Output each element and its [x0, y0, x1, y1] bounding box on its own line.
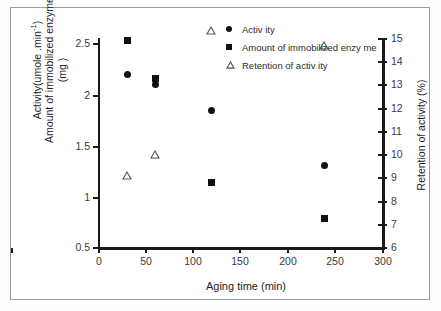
- right-y-tick: [378, 201, 387, 203]
- x-tick-label: 50: [126, 256, 166, 267]
- x-tick-label: 0: [79, 256, 119, 267]
- x-axis-title: Aging time (min): [161, 280, 331, 292]
- x-tick: [334, 248, 336, 253]
- right-y-tick: [378, 177, 387, 179]
- legend-label: Amount of immobilized enzy me: [242, 42, 377, 53]
- right-y-tick: [378, 131, 387, 133]
- x-tick: [11, 248, 13, 253]
- legend-item-activity: Activ ity: [226, 20, 426, 38]
- left-y-tick: [93, 197, 98, 199]
- left-y-tick: [93, 146, 98, 148]
- x-tick-label: 300: [363, 256, 403, 267]
- left-y-tick-label: 0.5: [50, 242, 90, 253]
- x-tick: [98, 248, 100, 253]
- chart-figure: 2.5 2 1.5 1 0.5 0 50 100 150 200 250 300…: [0, 0, 441, 311]
- left-y-axis-line: [98, 38, 100, 250]
- filled-circle-icon: [226, 26, 242, 32]
- chart-legend: Activ ity Amount of immobilized enzy me …: [226, 20, 426, 74]
- x-tick-label: 150: [220, 256, 260, 267]
- left-y-tick: [93, 95, 98, 97]
- data-point-retention: [206, 26, 216, 35]
- data-point-enzyme-amount: [208, 179, 215, 186]
- left-y-axis-title-line1: Activity(umole .min-1): [29, 21, 44, 119]
- left-y-axis-title-line3: (mg ): [56, 58, 69, 83]
- right-y-tick-label: 6: [391, 242, 421, 253]
- right-y-tick-label: 7: [391, 219, 421, 230]
- left-y-tick: [93, 43, 98, 45]
- data-point-activity: [152, 81, 159, 88]
- x-tick: [239, 248, 241, 253]
- data-point-retention: [122, 171, 132, 180]
- data-point-activity: [208, 107, 215, 114]
- left-y-tick-label: 1: [50, 192, 90, 203]
- legend-label: Activ ity: [242, 24, 275, 35]
- x-tick: [145, 248, 147, 253]
- x-tick: [192, 248, 194, 253]
- right-y-tick: [378, 247, 387, 249]
- right-y-tick: [378, 108, 387, 110]
- left-y-axis-title-line2: Amount of immobilized enzyme: [43, 0, 56, 143]
- data-point-activity: [321, 162, 328, 169]
- right-y-tick: [378, 224, 387, 226]
- x-tick-label: 250: [315, 256, 355, 267]
- x-tick-label: 100: [173, 256, 213, 267]
- data-point-enzyme-amount: [321, 215, 328, 222]
- x-tick-label: 200: [268, 256, 308, 267]
- data-point-enzyme-amount: [124, 37, 131, 44]
- figure-border: 2.5 2 1.5 1 0.5 0 50 100 150 200 250 300…: [10, 7, 430, 300]
- data-point-activity: [124, 71, 131, 78]
- right-y-axis-title: Retention of activity (%): [415, 60, 429, 210]
- right-y-tick: [378, 154, 387, 156]
- filled-square-icon: [226, 44, 242, 50]
- open-triangle-icon: [226, 61, 242, 69]
- x-tick: [287, 248, 289, 253]
- left-y-axis-title: Activity(umole .min-1) Amount of immobil…: [35, 0, 63, 155]
- legend-item-retention: Retention of activ ity: [226, 56, 426, 74]
- legend-item-enzyme-amount: Amount of immobilized enzy me: [226, 38, 426, 56]
- right-y-tick: [378, 84, 387, 86]
- data-point-retention: [150, 150, 160, 159]
- x-axis-line: [98, 247, 385, 250]
- legend-label: Retention of activ ity: [242, 60, 328, 71]
